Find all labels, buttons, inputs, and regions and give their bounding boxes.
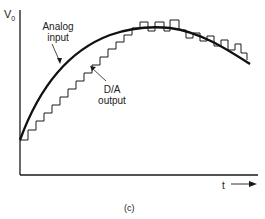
da-conversion-figure: V0 Analog input D/A output t (c) <box>0 0 265 219</box>
time-arrowhead-icon <box>249 181 257 187</box>
figure-caption: (c) <box>124 203 135 214</box>
da-arrowhead-icon <box>90 66 96 71</box>
da-leader-line <box>92 68 106 81</box>
x-axis-label: t <box>222 180 225 191</box>
analog-arrowhead-icon <box>57 58 62 64</box>
analog-input-curve <box>20 27 250 140</box>
y-axis-label: V0 <box>4 9 15 24</box>
da-output-label: D/A output <box>92 84 132 106</box>
analog-input-label: Analog input <box>38 21 78 43</box>
